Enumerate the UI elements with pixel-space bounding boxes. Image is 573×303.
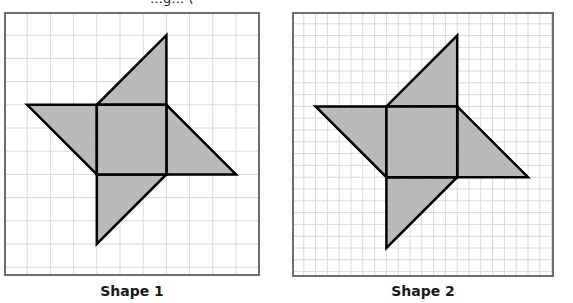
triangle-left — [27, 105, 97, 175]
triangle-top — [97, 35, 167, 105]
shape-2-figure — [294, 14, 554, 277]
shape-2-grid-panel — [292, 12, 554, 277]
shape-1-grid-panel — [4, 12, 260, 276]
shape-1-figure — [6, 14, 260, 276]
shape-1-caption: Shape 1 — [4, 283, 260, 299]
triangle-bottom — [97, 174, 167, 244]
shape-2-caption: Shape 2 — [292, 283, 554, 299]
triangle-right — [166, 105, 236, 175]
cropped-header-text: …g… ( — [150, 0, 193, 6]
center-square — [386, 106, 457, 177]
center-square — [97, 105, 167, 175]
